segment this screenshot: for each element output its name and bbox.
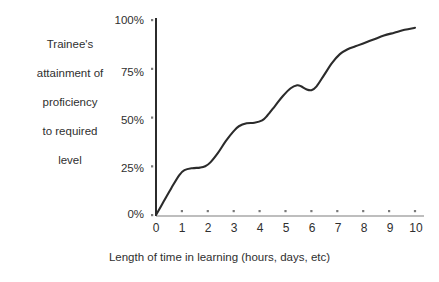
x-tick-dot bbox=[310, 210, 312, 212]
y-tick-marks bbox=[151, 19, 153, 216]
x-tick-dot bbox=[207, 210, 209, 212]
y-tick-dot bbox=[151, 117, 153, 119]
y-tick-dot bbox=[151, 68, 153, 70]
y-tick-dot bbox=[151, 165, 153, 167]
learning-curve-line bbox=[156, 28, 415, 215]
x-tick-marks bbox=[181, 210, 416, 212]
axes bbox=[156, 18, 424, 216]
x-tick-dot bbox=[284, 210, 286, 212]
y-tick-dot bbox=[151, 214, 153, 216]
x-tick-dot bbox=[336, 210, 338, 212]
x-tick-dot bbox=[259, 210, 261, 212]
y-tick-dot bbox=[151, 19, 153, 21]
x-tick-dot bbox=[388, 210, 390, 212]
x-tick-dot bbox=[414, 210, 416, 212]
x-tick-dot bbox=[233, 210, 235, 212]
x-tick-dot bbox=[181, 210, 183, 212]
x-tick-dot bbox=[362, 210, 364, 212]
plot-area bbox=[0, 0, 439, 282]
chart-figure: Trainee's attainment of proficiency to r… bbox=[0, 0, 439, 282]
